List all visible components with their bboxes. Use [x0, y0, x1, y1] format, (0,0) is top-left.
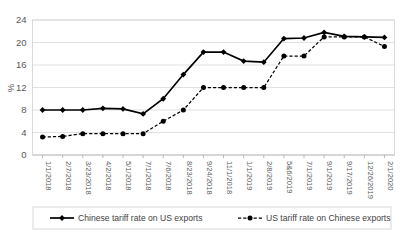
- tariff-rate-line-chart: 04812162024 1/1/20182/7/20183/23/20184/2…: [0, 0, 402, 237]
- data-point: [241, 58, 247, 64]
- data-point: [261, 85, 266, 90]
- y-tick-label-16: 16: [16, 59, 27, 70]
- y-axis-label: %: [5, 83, 16, 92]
- data-point: [281, 54, 286, 59]
- x-tick-label-3: 4/2/2018: [104, 161, 113, 191]
- data-point: [161, 119, 166, 124]
- x-tick-label-15: 9/17/2019: [345, 161, 354, 195]
- legend-label-1: US tariff rate on Chinese exports: [266, 213, 391, 223]
- x-tick-label-8: 9/24/2018: [205, 161, 214, 195]
- data-point: [80, 107, 86, 113]
- data-point: [221, 49, 227, 55]
- data-point: [302, 54, 307, 59]
- x-tick-label-1: 2/7/2018: [64, 161, 73, 191]
- x-tick-label-16: 12/26/2019: [366, 161, 375, 199]
- legend-label-0: Chinese tariff rate on US exports: [78, 213, 203, 223]
- x-tick-label-0: 1/1/2018: [44, 161, 53, 191]
- x-tick-label-14: 9/1/2019: [325, 161, 334, 191]
- series-line-chinese-tariff: [43, 32, 385, 114]
- x-axis-tick-labels: 1/1/20182/7/20183/23/20184/2/20185/1/201…: [44, 161, 395, 199]
- data-point: [221, 85, 226, 90]
- data-point: [100, 131, 105, 136]
- data-point: [382, 35, 388, 41]
- data-point: [40, 107, 46, 113]
- x-tick-label-13: 7/1/2019: [305, 161, 314, 191]
- y-tick-label-0: 0: [21, 149, 26, 160]
- data-point: [40, 135, 45, 140]
- data-point: [362, 34, 367, 39]
- x-tick-label-5: 7/1/2018: [144, 161, 153, 191]
- legend-marker-1: [248, 216, 253, 221]
- data-point: [322, 34, 327, 39]
- data-point: [141, 131, 146, 136]
- data-point: [60, 134, 65, 139]
- x-tick-label-4: 5/1/2018: [124, 161, 133, 191]
- chart-legend: Chinese tariff rate on US exportsUS tari…: [33, 207, 391, 229]
- chart-canvas: 04812162024 1/1/20182/7/20183/23/20184/2…: [0, 0, 402, 237]
- y-tick-label-12: 12: [16, 82, 27, 93]
- data-point: [241, 85, 246, 90]
- x-tick-label-2: 3/23/2018: [84, 161, 93, 195]
- y-tick-label-4: 4: [21, 127, 26, 138]
- data-point: [181, 108, 186, 113]
- data-point: [301, 35, 307, 41]
- data-point: [201, 85, 206, 90]
- y-tick-label-20: 20: [16, 37, 27, 48]
- data-series: [40, 29, 388, 139]
- data-point: [120, 106, 126, 112]
- data-point: [121, 131, 126, 136]
- y-tick-label-8: 8: [21, 104, 26, 115]
- data-point: [60, 107, 66, 113]
- y-tick-label-24: 24: [16, 14, 27, 25]
- x-tick-label-12: 5&6/2019: [285, 161, 294, 194]
- x-tick-label-10: 1/1/2019: [245, 161, 254, 191]
- x-tick-label-11: 2/8/2019: [265, 161, 274, 191]
- legend-marker-0: [59, 215, 65, 221]
- x-tick-label-6: 7/6/2018: [164, 161, 173, 191]
- data-point: [382, 44, 387, 49]
- data-point: [342, 34, 347, 39]
- x-tick-label-9: 11/1/2018: [225, 161, 234, 194]
- data-point: [80, 131, 85, 136]
- x-tick-label-7: 8/23/2018: [185, 161, 194, 195]
- x-tick-label-17: 2/1/2020: [386, 161, 395, 191]
- y-axis-tick-labels: 04812162024: [16, 14, 27, 160]
